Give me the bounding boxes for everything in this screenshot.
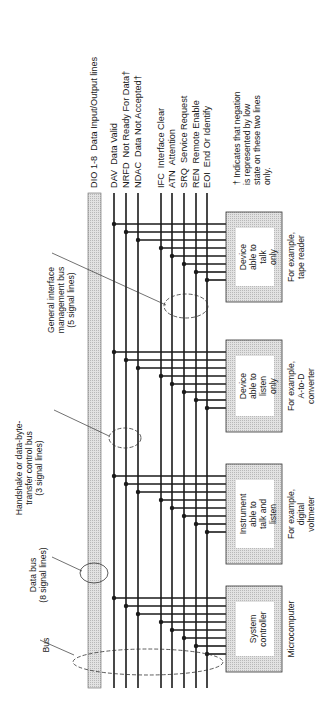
handshake-bus-annotation-line: (3 signal lines) — [34, 440, 44, 496]
svg-text:DAVData Valid: DAVData Valid — [109, 123, 119, 188]
footnote-line: state on these two lines — [252, 95, 262, 185]
general-bus-annotation-line: General interface — [46, 267, 56, 333]
device-example-line: A-to-D — [296, 374, 306, 399]
junction-dot — [136, 366, 140, 370]
junction-dot — [205, 278, 209, 282]
device-example-line: For example, — [286, 361, 296, 411]
svg-text:NRFDNot Ready For Data†: NRFDNot Ready For Data† — [121, 71, 131, 188]
handshake-bus-annotation: Handshake or data-byte-transfer control … — [14, 421, 44, 516]
bus-annotation: Bus — [41, 638, 51, 653]
device-label: Systemcontroller — [248, 611, 268, 646]
junction-dot — [124, 230, 128, 234]
general-bus-annotation: General interfacemanagement bus(5 signal… — [46, 267, 76, 333]
signal-label-ren: RENRemote Enable — [191, 100, 201, 188]
gpib-bus-diagram: Deviceable totalkonlyFor example,tape re… — [0, 0, 324, 706]
device-example-line: For example, — [286, 489, 296, 539]
junction-dot — [194, 644, 198, 648]
junction-dot — [170, 254, 174, 258]
data-bus-annotation-line: Data bus — [28, 558, 38, 592]
svg-text:RENRemote Enable: RENRemote Enable — [191, 100, 201, 188]
junction-dot — [170, 628, 174, 632]
device-example: For example,digitalvoltmeter — [286, 489, 316, 539]
junction-dot — [159, 374, 163, 378]
junction-dot — [205, 406, 209, 410]
device-label-line: able to — [248, 501, 258, 527]
device-label-line: talk and — [258, 499, 268, 529]
junction-dot — [182, 636, 186, 640]
junction-dot — [194, 522, 198, 526]
svg-text:DIO 1-8Data Input/Output lines: DIO 1-8Data Input/Output lines — [89, 56, 99, 188]
device-example: For example,tape reader — [286, 232, 306, 282]
bus-annotation-line: Bus — [41, 638, 51, 653]
device-label-line: Instrument — [238, 493, 248, 534]
footnote-line: † Indicates that negation — [232, 91, 242, 185]
junction-dot — [159, 246, 163, 250]
junction-dot — [136, 490, 140, 494]
footnote: † Indicates that negationis represented … — [232, 91, 272, 185]
device-label-line: Device — [238, 244, 248, 270]
general-bus-annotation-line: management bus — [56, 267, 66, 333]
junction-dot — [136, 238, 140, 242]
junction-dot — [170, 382, 174, 386]
device-example-line: voltmeter — [306, 496, 316, 531]
device-label-line: listen — [258, 376, 268, 396]
signal-label-srq: SRQService Request — [179, 95, 189, 188]
device-example-line: For example, — [286, 232, 296, 282]
device-example-line: digital — [296, 503, 306, 526]
svg-text:NDACData Not Accepted†: NDACData Not Accepted† — [133, 75, 143, 188]
device-1: Deviceable totalkonlyFor example,tape re… — [112, 212, 306, 302]
device-label-line: System — [248, 615, 258, 644]
device-example: Microcomputer — [286, 600, 296, 657]
junction-dot — [124, 482, 128, 486]
junction-dot — [182, 514, 186, 518]
handshake-bus-annotation-line: Handshake or data-byte- — [14, 421, 24, 516]
junction-dot — [112, 474, 116, 478]
signal-label-ifc: IFCInterface Clear — [156, 108, 166, 188]
data-bus-annotation-line: (8 signal lines) — [38, 547, 48, 603]
svg-text:ATNAttention: ATNAttention — [167, 129, 177, 188]
device-example-line: tape reader — [296, 235, 306, 279]
signal-label-dio: DIO 1-8Data Input/Output lines — [89, 56, 99, 188]
signal-label-dav: DAVData Valid — [109, 123, 119, 188]
footnote-line: is represented by low — [242, 103, 252, 185]
junction-dot — [159, 498, 163, 502]
general-bus-annotation-line: (5 signal lines) — [66, 272, 76, 328]
device-label-line: only — [268, 248, 278, 264]
device-label-line: controller — [258, 611, 268, 646]
device-example-line: Microcomputer — [286, 600, 296, 657]
device-label-line: able to — [248, 244, 258, 270]
junction-dot — [124, 604, 128, 608]
device-label-line: talk — [258, 250, 268, 264]
signal-label-nrfd: NRFDNot Ready For Data† — [121, 71, 131, 188]
junction-dot — [194, 270, 198, 274]
device-3: Instrumentable totalk andlistenFor examp… — [112, 464, 316, 564]
junction-dot — [182, 262, 186, 266]
device-label-line: able to — [248, 373, 258, 399]
device-2: Deviceable tolistenonlyFor example,A-to-… — [112, 340, 316, 432]
junction-dot — [112, 222, 116, 226]
svg-text:SRQService Request: SRQService Request — [179, 95, 189, 188]
junction-dot — [170, 506, 174, 510]
junction-dot — [205, 530, 209, 534]
device-label-line: Device — [238, 373, 248, 399]
data-bus-annotation: Data bus(8 signal lines) — [28, 547, 48, 603]
general-bus-ellipse — [164, 294, 208, 318]
svg-text:EOIEnd Or Identify: EOIEnd Or Identify — [202, 105, 212, 188]
footnote-line: only. — [262, 167, 272, 185]
junction-dot — [136, 612, 140, 616]
device-label-line: only — [268, 377, 278, 393]
junction-dot — [112, 350, 116, 354]
svg-text:IFCInterface Clear: IFCInterface Clear — [156, 108, 166, 188]
junction-dot — [124, 358, 128, 362]
data-bus-band — [88, 193, 101, 688]
signal-label-ndac: NDACData Not Accepted† — [133, 75, 143, 188]
junction-dot — [194, 398, 198, 402]
devices: Deviceable totalkonlyFor example,tape re… — [112, 212, 316, 672]
signal-label-eoi: EOIEnd Or Identify — [202, 105, 212, 188]
device-example: For example,A-to-Dconverter — [286, 361, 316, 411]
device-4: SystemcontrollerMicrocomputer — [112, 586, 296, 672]
handshake-bus-annotation-line: transfer control bus — [24, 431, 34, 505]
signal-label-atn: ATNAttention — [167, 129, 177, 188]
device-label-line: listen — [268, 504, 278, 524]
junction-dot — [159, 620, 163, 624]
